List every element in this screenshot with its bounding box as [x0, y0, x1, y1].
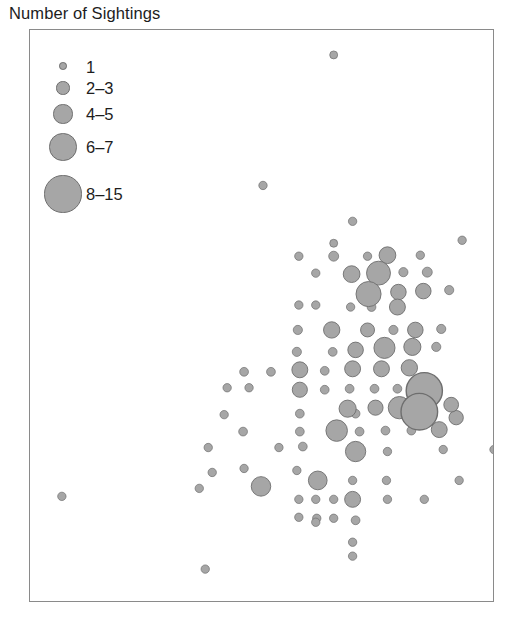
- bubble-marker: [251, 477, 271, 497]
- bubble-marker: [343, 266, 360, 283]
- bubble-marker: [329, 251, 339, 261]
- bubble-marker: [374, 337, 395, 358]
- bubble-marker: [320, 366, 329, 375]
- bubble-marker: [324, 322, 340, 338]
- bubble-marker: [379, 247, 396, 264]
- bubble-marker: [330, 51, 338, 59]
- bubble-marker: [312, 269, 320, 277]
- bubble-marker: [326, 420, 348, 442]
- bubble-marker: [351, 516, 360, 525]
- bubble-marker: [455, 476, 463, 484]
- bubble-marker: [292, 382, 307, 397]
- bubble-marker: [383, 447, 391, 455]
- bubble-marker: [458, 236, 466, 244]
- bubble-marker: [330, 495, 338, 503]
- bubble-marker: [389, 325, 398, 334]
- bubble-marker: [345, 361, 361, 377]
- bubble-marker: [381, 426, 390, 435]
- bubble-marker: [383, 495, 391, 503]
- bubble-marker: [422, 267, 432, 277]
- bubble-marker: [295, 301, 303, 309]
- bubble-marker: [361, 323, 375, 337]
- bubble-marker: [355, 427, 364, 436]
- bubble-marker: [439, 445, 447, 453]
- bubble-marker: [312, 495, 320, 503]
- bubble-marker: [382, 476, 390, 484]
- bubble-marker: [345, 441, 365, 461]
- bubble-marker: [432, 342, 441, 351]
- bubble-marker: [295, 409, 304, 418]
- bubble-marker: [293, 325, 302, 334]
- bubble-marker: [293, 466, 301, 474]
- bubble-marker: [348, 217, 356, 225]
- bubble-marker: [420, 495, 428, 503]
- bubble-marker: [374, 361, 390, 377]
- bubble-marker: [328, 347, 337, 356]
- bubble-marker: [399, 268, 408, 277]
- bubble-marker: [223, 384, 231, 392]
- bubble-marker: [295, 427, 304, 436]
- bubble-marker: [275, 443, 283, 451]
- bubble-marker: [391, 284, 407, 300]
- bubble-marker: [356, 282, 381, 307]
- bubble-marker: [445, 286, 454, 295]
- bubble-marker: [345, 491, 361, 507]
- bubble-marker: [259, 181, 267, 189]
- bubble-marker: [345, 384, 354, 393]
- bubble-marker: [348, 538, 356, 546]
- bubble-marker: [295, 495, 303, 503]
- bubble-marker: [401, 360, 417, 376]
- bubble-marker: [404, 338, 421, 355]
- bubble-marker: [348, 476, 356, 484]
- bubble-marker: [401, 393, 438, 430]
- bubble-marker: [239, 427, 248, 436]
- bubble-marker: [58, 492, 66, 500]
- legend-title: Number of Sightings: [9, 4, 160, 23]
- bubble-marker: [267, 367, 276, 376]
- bubble-marker: [292, 362, 308, 378]
- bubble-marker: [368, 400, 383, 415]
- bubble-marker: [245, 384, 253, 392]
- bubble-marker: [449, 410, 463, 424]
- bubble-scatter-layer: [30, 30, 493, 601]
- bubble-marker: [393, 384, 402, 393]
- bubble-marker: [348, 552, 356, 560]
- bubble-map-figure: Number of Sightings 12–34–56–78–15: [0, 0, 521, 630]
- bubble-marker: [295, 513, 303, 521]
- bubble-marker: [444, 397, 459, 412]
- bubble-marker: [363, 252, 371, 260]
- bubble-marker: [312, 518, 320, 526]
- bubble-marker: [330, 514, 338, 522]
- bubble-marker: [292, 347, 301, 356]
- bubble-marker: [220, 410, 228, 418]
- bubble-marker: [204, 443, 212, 451]
- bubble-marker: [195, 484, 203, 492]
- bubble-marker: [346, 303, 354, 311]
- bubble-marker: [389, 299, 405, 315]
- bubble-marker: [416, 283, 432, 299]
- bubble-marker: [201, 565, 209, 573]
- bubble-marker: [298, 442, 307, 451]
- bubble-marker: [240, 367, 249, 376]
- plot-area: [29, 29, 494, 602]
- bubble-marker: [339, 400, 356, 417]
- bubble-marker: [437, 324, 446, 333]
- bubble-marker: [330, 239, 338, 247]
- bubble-marker: [320, 385, 329, 394]
- bubble-marker: [308, 471, 327, 490]
- bubble-marker: [370, 384, 379, 393]
- bubble-marker: [240, 464, 248, 472]
- bubble-marker: [295, 252, 303, 260]
- bubble-marker: [408, 322, 424, 338]
- bubble-marker: [208, 468, 216, 476]
- bubble-marker: [312, 301, 320, 309]
- bubble-marker: [490, 445, 493, 453]
- bubble-marker: [416, 251, 424, 259]
- bubble-marker: [348, 342, 364, 358]
